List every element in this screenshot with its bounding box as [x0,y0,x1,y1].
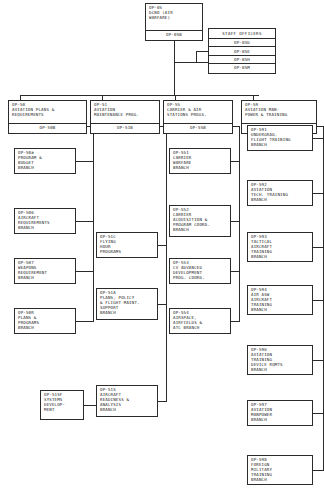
root-line: WARFARE) [149,16,200,21]
stub-op-51s [157,401,167,402]
stub-op-552 [230,221,240,222]
division-deputy-op-51b[interactable]: OP-51B [90,123,160,134]
division-deputy-op-50b[interactable]: OP-50B [8,123,87,134]
branch-box-op-51a[interactable]: OP-51APLANS, POLICY& FLIGHT MAINT.SUPPOR… [96,288,158,320]
division-line: STATIONS PROGS. [167,113,230,118]
staff-officers-box[interactable]: STAFF OFFICERSOP-05DOP-05EOP-05HOP-05M [208,28,276,74]
stub-op-596 [312,360,324,361]
branch-box-op-597[interactable]: OP-597AVIATIONMANPOWERBRANCH [247,400,313,426]
branch-box-op-50a[interactable]: OP-50aPROGRAM &BUDGETBRANCH [14,148,76,174]
stub-op-507 [75,271,94,272]
connector-root-to-staff [174,62,208,63]
box-text-line: BRANCH [18,276,73,281]
staff-officer-row[interactable]: OP-05E [209,46,275,54]
stub-op-598 [312,470,324,471]
branch-box-op-594[interactable]: OP-594AIR ASWAIRCRAFTTRAININGBRANCH [247,285,313,315]
branch-box-op-598[interactable]: OP-598FOREIGNMILITARYTRAININGBRANCH [247,455,313,485]
branch-box-op-596[interactable]: OP-596AVIATIONTRAININGDEVICE RQMTSBRANCH [247,345,313,375]
stub-op-553 [230,271,240,272]
staff-officer-row[interactable]: OP-05M [209,63,275,71]
root-deputy-op-05b[interactable]: OP-05B [145,30,203,41]
box-text-line: BRANCH [251,198,310,203]
sub-branch-box-op-51sf[interactable]: OP-51SFSYSTEMSDEVELOP-MENT [40,390,84,420]
division-line: POWER & TRAINING [245,113,314,118]
box-text-line: PROG. COORD. [173,276,228,281]
spine-op-50 [93,126,94,321]
connector-division-bus [20,95,259,96]
stub-op-50r [75,321,94,322]
staff-officers-title: STAFF OFFICERS [209,29,275,38]
connector-staff-vert [196,51,197,63]
division-box-op-50[interactable]: OP-50AVIATION PLANS &REQUIREMENTSOP-50B [8,100,87,134]
stub-op-597 [312,413,324,414]
stub-op-594 [312,300,324,301]
box-text-line: BRANCH [251,478,310,483]
stub-op-591 [312,138,324,139]
connector-op51sf-to-op51s [84,405,96,406]
branch-box-op-506[interactable]: OP-506AIRCRAFTREQUIREMENTSBRANCH [14,208,76,234]
spine-head-op-59 [316,126,324,127]
root-box-op-05[interactable]: OP-05DCNO (AIRWARFARE)OP-05B [145,3,203,41]
box-text-line: BRANCH [173,228,228,233]
staff-officer-row[interactable]: OP-05H [209,55,275,63]
box-text-line: BRANCH [251,368,310,373]
box-text-line: BRANCH [251,255,310,260]
box-text-line: PROGRAMS [100,250,155,255]
box-text-line: BRANCH [251,143,310,148]
branch-box-op-592[interactable]: OP-592AVIATIONTECH. TRAININGBRANCH [247,180,313,206]
stub-op-51c [157,245,167,246]
box-text-line: BRANCH [100,408,155,413]
connector-root-to-bus [174,62,175,95]
branch-box-op-551[interactable]: OP-551CARRIERWARFAREBRANCH [169,148,231,174]
box-text-line: ATC BRANCH [173,326,228,331]
box-text-line: BRANCH [18,166,73,171]
box-text-line: BRANCH [18,226,73,231]
box-text-line: BRANCH [173,166,228,171]
branch-box-op-507[interactable]: OP-507WEAPONSREQUIREMENTBRANCH [14,258,76,284]
stub-op-50a [75,161,94,162]
division-deputy-op-55b[interactable]: OP-55B [163,123,233,134]
branch-box-op-553[interactable]: OP-553CV ADVANCEDDEVELOPMENTPROG. COORD. [169,258,231,284]
stub-op-593 [312,247,324,248]
branch-box-op-591[interactable]: OP-591UNDERGRAD.FLIGHT TRAININGBRANCH [247,125,313,151]
branch-box-op-552[interactable]: OP-552CARRIERACQUISITION &PROGRAM COORD.… [169,205,231,237]
stub-op-506 [75,221,94,222]
staff-officer-row[interactable]: OP-05D [209,38,275,46]
box-text-line: BRANCH [251,308,310,313]
connector-staff-left-stub [196,51,208,52]
division-line: MAINTENANCE PROG. [94,113,157,118]
branch-box-op-554[interactable]: OP-554AIRSPACE,AIRFIELDS &ATC BRANCH [169,308,231,334]
stub-op-551 [230,161,240,162]
stub-op-554 [230,321,240,322]
branch-box-op-593[interactable]: OP-593TACTICALAIRCRAFTTRAININGBRANCH [247,232,313,262]
branch-box-op-50r[interactable]: OP-50RPLANS &PROGRAMSBRANCH [14,308,76,334]
stub-op-51a [157,304,167,305]
stub-op-592 [312,193,324,194]
connector-root-down [174,41,175,63]
division-box-op-55[interactable]: OP-55CARRIER & AIRSTATIONS PROGS.OP-55B [163,100,233,134]
spine-op-55 [239,126,240,321]
box-text-line: BRANCH [18,326,73,331]
branch-box-op-51c[interactable]: OP-51CFLYINGHOURPROGRAMS [96,232,158,258]
box-text-line: BRANCH [100,311,155,316]
spine-op-51 [166,126,167,401]
box-text-line: BRANCH [251,418,310,423]
spine-head-op-55 [232,126,240,127]
box-text-line: MENT [44,408,81,413]
branch-box-op-51s[interactable]: OP-51SAIRCRAFTREADINESS &ANALYSISBRANCH [96,385,158,417]
division-box-op-51[interactable]: OP-51AVIATIONMAINTENANCE PROG.OP-51B [90,100,160,134]
division-line: REQUIREMENTS [12,113,84,118]
